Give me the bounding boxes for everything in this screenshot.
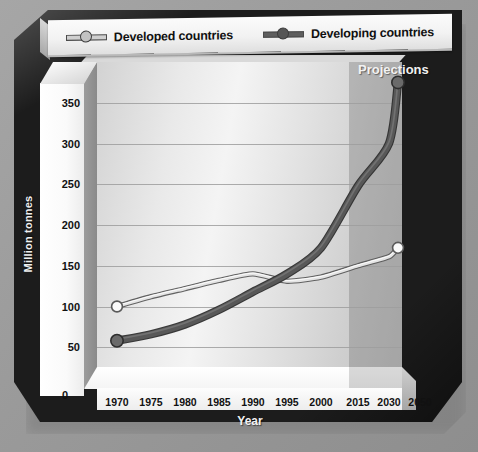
- series-endpoint-marker: [392, 76, 404, 88]
- chart-screenshot: Projections 50100150200250300350 0 Milli…: [0, 0, 478, 452]
- series-line-outline: [117, 248, 398, 307]
- legend-item-developing[interactable]: Developing countries: [263, 25, 434, 42]
- series-endpoint-marker: [112, 301, 123, 312]
- legend-marker-icon: [263, 27, 304, 41]
- plot-lines: [0, 0, 478, 452]
- series-endpoint-marker: [111, 335, 123, 347]
- series-line: [117, 82, 398, 340]
- series-developing-countries: [111, 76, 404, 347]
- series-developed-countries: [112, 242, 404, 311]
- legend-marker-icon: [66, 30, 107, 44]
- series-line-highlight: [117, 81, 398, 339]
- legend-label-developing: Developing countries: [311, 25, 434, 41]
- legend: Developed countries Developing countries: [48, 14, 452, 55]
- series-endpoint-marker: [393, 242, 404, 253]
- legend-item-developed[interactable]: Developed countries: [66, 28, 233, 45]
- legend-label-developed: Developed countries: [114, 28, 233, 44]
- series-line-outline: [117, 82, 398, 340]
